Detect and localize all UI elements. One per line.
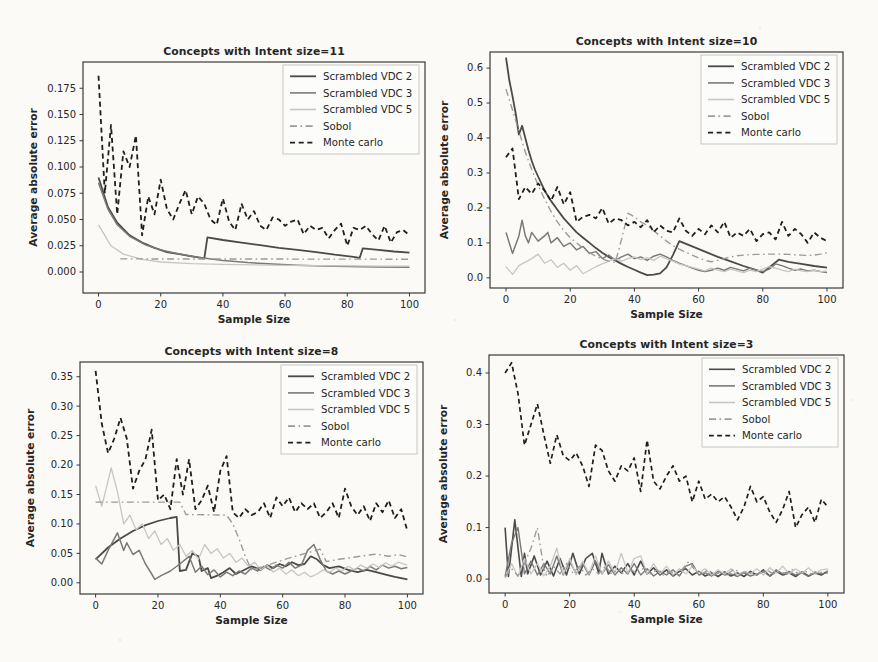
x-tick-label: 60: [276, 600, 289, 611]
y-tick-label: 0.3: [467, 167, 483, 178]
y-tick-label: 0.25: [51, 430, 73, 441]
legend-label-sobol: Sobol: [741, 111, 769, 122]
y-tick-label: 0.20: [51, 459, 73, 470]
legend-label-sobol: Sobol: [321, 421, 349, 432]
x-tick-label: 0: [502, 599, 508, 610]
y-tick-label: 0.05: [51, 548, 73, 559]
x-tick-label: 80: [756, 294, 769, 305]
legend-3: Scrambled VDC 2Scrambled VDC 3Scrambled …: [702, 358, 838, 447]
legend-label-scrambled-vdc-5: Scrambled VDC 5: [741, 94, 830, 105]
x-tick-label: 0: [95, 299, 101, 310]
x-tick-label: 60: [692, 294, 705, 305]
legend-label-scrambled-vdc-2: Scrambled VDC 2: [321, 371, 410, 382]
legend-label-scrambled-vdc-3: Scrambled VDC 3: [741, 78, 830, 89]
legend-label-monte-carlo: Monte carlo: [323, 137, 383, 148]
y-tick-label: 0.1: [466, 522, 482, 533]
legend-label-sobol: Sobol: [323, 121, 351, 132]
series-line-scrambled-vdc-5: [96, 468, 408, 577]
legend-label-monte-carlo: Monte carlo: [741, 127, 801, 138]
chart-panel-3: Concepts with Intent size=30204060801000…: [437, 338, 844, 625]
y-tick-label: 0.025: [47, 240, 76, 251]
chart-0-title: Concepts with Intent size=11: [163, 45, 345, 58]
x-tick-label: 100: [400, 299, 419, 310]
legend-label-monte-carlo: Monte carlo: [321, 437, 381, 448]
y-tick-label: 0.35: [51, 371, 73, 382]
x-tick-label: 100: [817, 294, 836, 305]
y-axis-label: Average absolute error: [24, 408, 36, 547]
x-tick-label: 60: [279, 299, 292, 310]
x-tick-label: 40: [214, 600, 227, 611]
x-tick-label: 60: [692, 599, 705, 610]
y-tick-label: 0.000: [47, 266, 76, 277]
x-tick-label: 40: [628, 294, 641, 305]
x-tick-label: 40: [217, 299, 230, 310]
y-tick-label: 0.0: [466, 573, 482, 584]
series-line-monte-carlo: [506, 149, 827, 243]
series-line-scrambled-vdc-5: [99, 225, 410, 266]
legend-label-monte-carlo: Monte carlo: [742, 430, 802, 441]
legend-label-scrambled-vdc-5: Scrambled VDC 5: [321, 404, 410, 415]
y-tick-label: 0.050: [47, 214, 76, 225]
figure-svg: Concepts with Intent size=11020406080100…: [0, 0, 878, 662]
chart-3-title: Concepts with Intent size=3: [580, 338, 754, 351]
legend-label-scrambled-vdc-3: Scrambled VDC 3: [742, 381, 831, 392]
y-tick-label: 0.150: [47, 109, 76, 120]
y-axis-label: Average absolute error: [27, 108, 39, 247]
y-tick-label: 0.15: [51, 489, 73, 500]
x-tick-label: 20: [564, 294, 577, 305]
y-axis-label: Average absolute error: [438, 100, 450, 239]
x-tick-label: 20: [154, 299, 167, 310]
x-axis-label: Sample Size: [218, 313, 291, 325]
y-tick-label: 0.3: [466, 419, 482, 430]
x-tick-label: 80: [341, 299, 354, 310]
series-line-scrambled-vdc-3: [99, 183, 410, 267]
y-tick-label: 0.10: [51, 518, 73, 529]
y-axis-label: Average absolute error: [437, 404, 449, 543]
scanned-figure-page: Concepts with Intent size=11020406080100…: [0, 0, 878, 662]
series-line-scrambled-vdc-3: [506, 220, 827, 272]
x-tick-label: 80: [757, 599, 770, 610]
chart-panel-0: Concepts with Intent size=11020406080100…: [27, 45, 425, 325]
y-tick-label: 0.2: [467, 202, 483, 213]
legend-1: Scrambled VDC 2Scrambled VDC 3Scrambled …: [701, 55, 837, 144]
x-tick-label: 40: [628, 599, 641, 610]
x-tick-label: 20: [563, 599, 576, 610]
legend-0: Scrambled VDC 2Scrambled VDC 3Scrambled …: [283, 65, 419, 154]
legend-label-scrambled-vdc-2: Scrambled VDC 2: [742, 364, 831, 375]
y-tick-label: 0.175: [47, 83, 76, 94]
y-tick-label: 0.4: [467, 132, 483, 143]
x-tick-label: 0: [503, 294, 509, 305]
y-tick-label: 0.5: [467, 97, 483, 108]
legend-label-scrambled-vdc-2: Scrambled VDC 2: [741, 61, 830, 72]
legend-label-sobol: Sobol: [742, 414, 770, 425]
legend-label-scrambled-vdc-3: Scrambled VDC 3: [323, 88, 412, 99]
y-tick-label: 0.075: [47, 188, 76, 199]
chart-1-title: Concepts with Intent size=10: [576, 35, 758, 48]
chart-panel-2: Concepts with Intent size=80204060801000…: [24, 345, 423, 626]
y-tick-label: 0.125: [47, 135, 76, 146]
legend-label-scrambled-vdc-3: Scrambled VDC 3: [321, 388, 410, 399]
x-tick-label: 80: [339, 600, 352, 611]
x-tick-label: 100: [818, 599, 837, 610]
x-axis-label: Sample Size: [630, 613, 703, 625]
x-tick-label: 100: [398, 600, 417, 611]
y-tick-label: 0.100: [47, 161, 76, 172]
y-tick-label: 0.1: [467, 237, 483, 248]
legend-label-scrambled-vdc-5: Scrambled VDC 5: [742, 397, 831, 408]
x-tick-label: 0: [92, 600, 98, 611]
y-tick-label: 0.0: [467, 272, 483, 283]
series-line-scrambled-vdc-2: [505, 520, 828, 577]
x-tick-label: 20: [152, 600, 165, 611]
y-tick-label: 0.30: [51, 401, 73, 412]
x-axis-label: Sample Size: [630, 308, 703, 320]
y-tick-label: 0.4: [466, 367, 482, 378]
legend-label-scrambled-vdc-2: Scrambled VDC 2: [323, 71, 412, 82]
chart-2-title: Concepts with Intent size=8: [165, 345, 339, 358]
chart-panel-1: Concepts with Intent size=10020406080100…: [438, 35, 843, 320]
y-tick-label: 0.6: [467, 62, 483, 73]
y-tick-label: 0.00: [51, 577, 73, 588]
y-tick-label: 0.2: [466, 470, 482, 481]
x-axis-label: Sample Size: [215, 614, 288, 626]
legend-label-scrambled-vdc-5: Scrambled VDC 5: [323, 104, 412, 115]
legend-2: Scrambled VDC 2Scrambled VDC 3Scrambled …: [281, 365, 417, 454]
